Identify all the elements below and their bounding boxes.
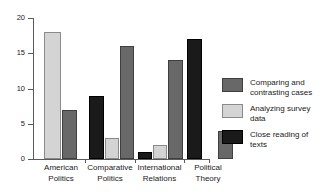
legend-entry-analyzing-survey-data: Analyzing survey data — [222, 104, 326, 123]
bar-international-relations-comparing-contrasting-cases — [168, 60, 183, 159]
y-tick-5: 5 — [28, 124, 33, 125]
plot-area: 20 15 10 5 0 — [33, 18, 210, 159]
y-tick-label-0: 0 — [21, 153, 25, 164]
bar-comparative-politics-analyzing-survey-data — [105, 138, 119, 159]
y-tick-label-10: 10 — [17, 83, 25, 94]
x-axis-label-comparative-politics: Comparative Politics — [85, 163, 135, 184]
bar-chart-figure: 20 15 10 5 0 — [0, 0, 329, 194]
bar-group-comparative-politics — [89, 18, 135, 159]
y-tick-0: 0 — [28, 159, 33, 160]
bar-comparative-politics-close-reading-of-texts — [89, 96, 104, 159]
y-tick-label-20: 20 — [17, 12, 25, 23]
bar-group-american-politics — [41, 18, 81, 159]
legend-label-analyzing-survey-data: Analyzing survey data — [250, 104, 326, 123]
legend-swatch-analyzing-survey-data — [222, 104, 243, 118]
y-axis-line — [33, 18, 34, 159]
y-tick-label-15: 15 — [17, 47, 25, 58]
bar-group-political-theory — [187, 18, 227, 159]
legend-entry-comparing-contrasting-cases: Comparing and contrasting cases — [222, 78, 326, 97]
bar-group-international-relations — [138, 18, 184, 159]
y-tick-label-5: 5 — [21, 118, 25, 129]
x-axis-label-american-politics: American Politics — [36, 163, 86, 184]
bar-comparative-politics-comparing-contrasting-cases — [120, 46, 134, 159]
bar-international-relations-analyzing-survey-data — [153, 145, 167, 159]
bar-american-politics-comparing-contrasting-cases — [62, 110, 77, 159]
bar-political-theory-close-reading-of-texts — [187, 39, 202, 159]
x-axis-label-political-theory: Political Theory — [184, 163, 232, 184]
legend-label-comparing-contrasting-cases: Comparing and contrasting cases — [250, 78, 312, 97]
legend-label-close-reading-of-texts: Close reading of texts — [250, 130, 326, 149]
y-tick-15: 15 — [28, 53, 33, 54]
y-tick-20: 20 — [28, 18, 33, 19]
legend-swatch-comparing-contrasting-cases — [222, 78, 243, 92]
bar-international-relations-close-reading-of-texts — [138, 152, 152, 159]
chart-legend: Comparing and contrasting cases Analyzin… — [222, 78, 326, 156]
legend-entry-close-reading-of-texts: Close reading of texts — [222, 130, 326, 149]
x-axis-label-international-relations: International Relations — [134, 163, 185, 184]
y-tick-10: 10 — [28, 89, 33, 90]
bar-american-politics-analyzing-survey-data — [44, 32, 61, 159]
legend-swatch-close-reading-of-texts — [222, 130, 243, 144]
